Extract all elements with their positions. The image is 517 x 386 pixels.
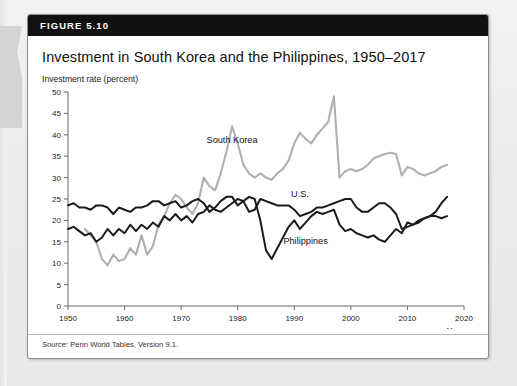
svg-text:50: 50 xyxy=(52,88,61,97)
svg-text:1950: 1950 xyxy=(59,314,77,323)
figure-card: FIGURE 5.10 Investment in South Korea an… xyxy=(27,14,489,359)
svg-text:2010: 2010 xyxy=(399,314,417,323)
source-text: Penn World Tables, Version 9.1. xyxy=(68,340,178,349)
svg-text:1990: 1990 xyxy=(285,314,303,323)
svg-text:South Korea: South Korea xyxy=(207,135,259,145)
svg-text:2020: 2020 xyxy=(455,314,473,323)
svg-text:0: 0 xyxy=(57,302,62,311)
svg-text:Year: Year xyxy=(447,326,465,329)
svg-text:15: 15 xyxy=(52,238,61,247)
svg-text:40: 40 xyxy=(52,131,61,140)
figure-number-label: FIGURE 5.10 xyxy=(40,20,109,31)
figure-header-bar: FIGURE 5.10 xyxy=(28,15,488,36)
svg-text:45: 45 xyxy=(52,109,61,118)
series-annotations: South KoreaU.S.Philippines xyxy=(207,135,329,246)
svg-text:1970: 1970 xyxy=(172,314,190,323)
svg-text:5: 5 xyxy=(57,281,62,290)
svg-text:Philippines: Philippines xyxy=(283,236,328,246)
svg-text:1960: 1960 xyxy=(116,314,134,323)
svg-text:U.S.: U.S. xyxy=(291,189,309,199)
svg-text:20: 20 xyxy=(52,216,61,225)
svg-text:1980: 1980 xyxy=(229,314,247,323)
y-axis-title: Investment rate (percent) xyxy=(42,74,488,84)
page-bookmark-tab xyxy=(0,26,22,128)
x-axis: 19501960197019801990200020102020Year xyxy=(59,306,473,329)
line-chart-svg: 05101520253035404550 1950196019701980199… xyxy=(42,84,476,329)
source-label: Source: xyxy=(42,340,68,349)
textbook-page: FIGURE 5.10 Investment in South Korea an… xyxy=(0,0,517,386)
source-note: Source: Penn World Tables, Version 9.1. xyxy=(42,340,488,349)
svg-text:25: 25 xyxy=(52,195,61,204)
svg-text:30: 30 xyxy=(52,174,61,183)
svg-text:10: 10 xyxy=(52,259,61,268)
svg-text:35: 35 xyxy=(52,152,61,161)
series-lines xyxy=(68,96,447,265)
y-axis: 05101520253035404550 xyxy=(52,88,68,311)
chart-plot-area: 05101520253035404550 1950196019701980199… xyxy=(42,84,476,329)
figure-footer: Source: Penn World Tables, Version 9.1. xyxy=(28,334,488,358)
svg-text:2000: 2000 xyxy=(342,314,360,323)
figure-title: Investment in South Korea and the Philip… xyxy=(42,49,488,65)
